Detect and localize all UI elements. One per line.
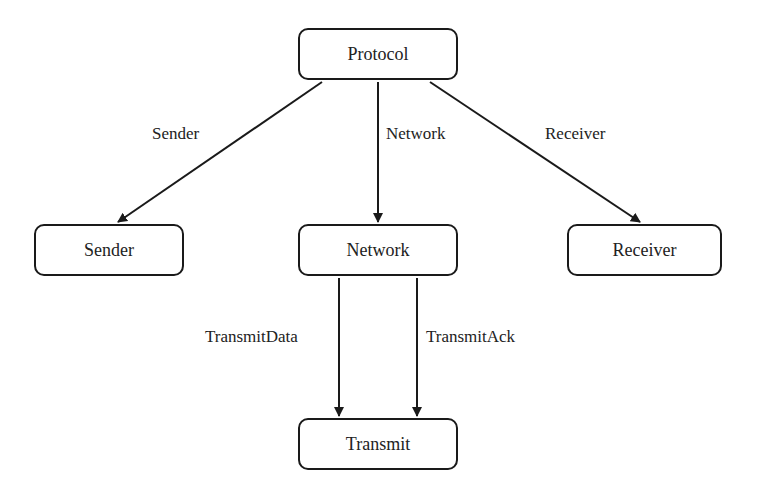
edge-label-transmit-data: TransmitData bbox=[205, 327, 298, 347]
node-receiver[interactable]: Receiver bbox=[567, 224, 722, 276]
node-sender-label: Sender bbox=[84, 240, 134, 261]
node-network-label: Network bbox=[347, 240, 410, 261]
edge-protocol-sender bbox=[118, 82, 322, 222]
node-protocol-label: Protocol bbox=[348, 44, 409, 65]
edge-label-receiver: Receiver bbox=[545, 124, 605, 144]
node-network[interactable]: Network bbox=[298, 224, 458, 276]
edge-label-sender: Sender bbox=[152, 124, 199, 144]
node-transmit-label: Transmit bbox=[346, 434, 410, 455]
node-protocol[interactable]: Protocol bbox=[298, 28, 458, 80]
edge-protocol-receiver bbox=[430, 82, 640, 222]
edge-label-network: Network bbox=[386, 124, 445, 144]
node-receiver-label: Receiver bbox=[613, 240, 677, 261]
node-transmit[interactable]: Transmit bbox=[298, 418, 458, 470]
edge-label-transmit-ack: TransmitAck bbox=[426, 327, 515, 347]
node-sender[interactable]: Sender bbox=[34, 224, 184, 276]
